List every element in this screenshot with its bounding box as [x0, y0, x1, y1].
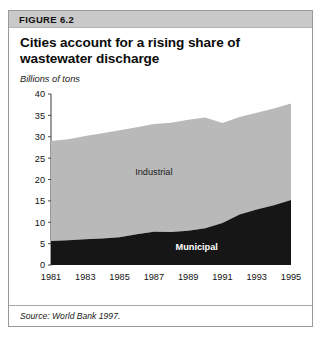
figure-card: FIGURE 6.2 Cities account for a rising s… — [8, 10, 313, 327]
x-axis-tick-labels: 19811983198519871989199119931995 — [41, 272, 301, 282]
figure-number-band: FIGURE 6.2 — [9, 11, 312, 28]
stacked-area-chart: 0510152025303540 19811983198519871989199… — [9, 86, 312, 301]
source-note: Source: World Bank 1997. — [20, 311, 120, 321]
x-tick-1987: 1987 — [144, 272, 164, 282]
y-tick-10: 10 — [35, 217, 45, 227]
y-tick-15: 15 — [35, 196, 45, 206]
chart-plot-area: 0510152025303540 19811983198519871989199… — [9, 86, 312, 301]
y-tick-20: 20 — [35, 174, 45, 184]
y-tick-5: 5 — [40, 239, 45, 249]
figure-title: Cities account for a rising share of was… — [20, 35, 300, 67]
x-tick-1995: 1995 — [281, 272, 301, 282]
y-tick-40: 40 — [35, 89, 45, 99]
y-tick-0: 0 — [40, 260, 45, 270]
y-axis-unit-label: Billions of tons — [20, 74, 312, 84]
y-axis-tick-labels: 0510152025303540 — [35, 89, 51, 270]
x-tick-1981: 1981 — [41, 272, 61, 282]
y-tick-25: 25 — [35, 153, 45, 163]
source-divider — [9, 305, 312, 306]
figure-number-label: FIGURE 6.2 — [19, 14, 74, 25]
x-tick-1989: 1989 — [178, 272, 198, 282]
y-tick-30: 30 — [35, 132, 45, 142]
x-tick-1983: 1983 — [75, 272, 95, 282]
x-tick-1991: 1991 — [212, 272, 232, 282]
x-tick-1985: 1985 — [109, 272, 129, 282]
label-industrial: Industrial — [135, 167, 172, 177]
y-tick-35: 35 — [35, 110, 45, 120]
label-municipal: Municipal — [176, 242, 218, 252]
x-tick-1993: 1993 — [246, 272, 266, 282]
